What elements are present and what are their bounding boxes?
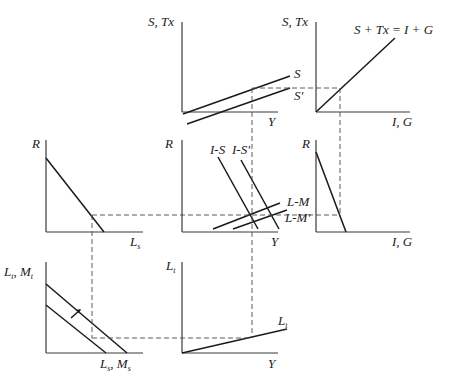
lm-prime-curve	[233, 210, 287, 229]
panel-saving: S, Tx Y S S'	[148, 14, 304, 129]
panel-islm: R Y I-S I-S' L-M L-M'	[164, 136, 311, 249]
x-axis-label: I, G	[391, 114, 413, 129]
x-axis-label: Ls, Ms	[99, 356, 131, 373]
y-axis-label: Lt, Mt	[3, 264, 34, 281]
is-prime-label: I-S'	[231, 142, 250, 157]
x-axis-label: Y	[268, 114, 277, 129]
y-axis-label: Lt	[165, 258, 176, 275]
x-axis-label: Y	[268, 356, 277, 371]
panel-investment: R I, G	[301, 136, 413, 249]
x-axis-label: Y	[271, 234, 280, 249]
panel-liquidity-speculative: R Ls	[31, 136, 143, 251]
investment-demand-curve	[316, 152, 346, 232]
lm-prime-label: L-M'	[284, 210, 310, 225]
panel-money-market: Lt, Mt Ls, Ms	[3, 262, 143, 373]
money-supply-line-outer	[46, 284, 127, 353]
lm-label: L-M	[286, 194, 311, 209]
y-axis-label: R	[31, 136, 40, 151]
s-curve	[183, 76, 290, 114]
transactions-demand-line	[182, 329, 287, 353]
is-label: I-S	[209, 142, 226, 157]
speculative-demand-curve	[46, 158, 104, 232]
is-prime-curve	[241, 160, 279, 229]
y-axis-label: R	[164, 136, 173, 151]
y-axis-label: S, Tx	[282, 14, 308, 29]
x-axis-label: I, G	[391, 234, 413, 249]
lt-curve-label: Lt	[277, 313, 288, 330]
equilibrium-line	[316, 38, 395, 112]
money-supply-line-inner	[46, 305, 106, 353]
equilibrium-label: S + Tx = I + G	[354, 22, 434, 37]
x-axis-label: Ls	[129, 234, 140, 251]
s-label: S	[294, 66, 301, 81]
y-axis-label: S, Tx	[148, 14, 174, 29]
panel-equilibrium: S, Tx I, G S + Tx = I + G	[282, 14, 434, 129]
panel-transactions: Lt Y Lt	[165, 258, 288, 371]
s-prime-label: S'	[294, 88, 304, 103]
y-axis-label: R	[301, 136, 310, 151]
is-lm-four-quadrant-diagram: S, Tx Y S S' S, Tx I, G S + Tx = I + G R…	[0, 0, 450, 379]
